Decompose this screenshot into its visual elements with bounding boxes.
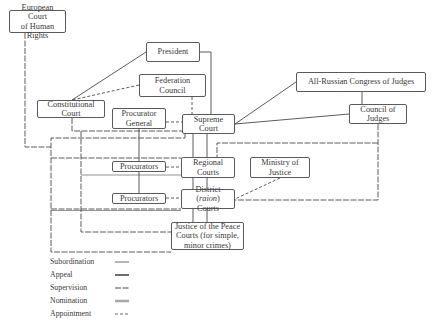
legend-label: Appointment <box>50 307 91 320</box>
echr-link <box>25 33 51 147</box>
district-courts-line2: Courts <box>197 204 219 213</box>
federation-council-label: Federation Council <box>142 76 203 95</box>
short-dash-line-icon <box>115 312 129 316</box>
node-european-court-human-rights: European Court of Human Rights <box>9 10 66 33</box>
node-president: President <box>146 42 200 62</box>
supreme-council-link <box>235 114 349 124</box>
regional-courts-label: Regional Courts <box>184 158 232 177</box>
council-regional-link <box>217 143 378 157</box>
node-procurator-general: Procurator General <box>112 108 166 129</box>
thick-line-icon <box>115 273 129 277</box>
legend-nomination: Nomination <box>50 294 150 307</box>
district-line1-b: ) <box>217 194 220 203</box>
node-supreme-court: Supreme Court <box>182 114 235 134</box>
council-label: Council of Judges <box>352 105 404 124</box>
long-dash-line-icon <box>115 286 129 290</box>
district-courts-line1: District (raion) <box>184 185 232 204</box>
legend-label: Subordination <box>50 255 94 268</box>
jop-line1: Justice of the Peace <box>175 222 240 231</box>
ministry-label: Ministry of Justice <box>253 158 307 177</box>
procurators-regional-label: Procurators <box>120 162 158 171</box>
legend-label: Supervision <box>50 281 87 294</box>
node-all-russian-congress-of-judges: All-Russian Congress of Judges <box>296 72 426 92</box>
jop-line3: minor crimes) <box>184 241 231 250</box>
legend-label: Nomination <box>50 294 87 307</box>
echr-line2: of Human Rights <box>12 22 63 41</box>
jop-line2: Courts (for simple, <box>176 231 239 240</box>
legend-supervision: Supervision <box>50 281 150 294</box>
node-council-of-judges: Council of Judges <box>349 104 407 124</box>
legend-subordination: Subordination <box>50 255 150 268</box>
ministry-district-link <box>235 178 280 199</box>
node-procurators-regional: Procurators <box>112 161 166 172</box>
constitutional-line-2 <box>81 131 171 232</box>
constitutional-court-label: Constitutional Court <box>40 100 102 119</box>
node-procurators-district: Procurators <box>112 193 166 204</box>
node-ministry-of-justice: Ministry of Justice <box>250 157 310 178</box>
legend-appointment: Appointment <box>50 307 150 320</box>
procurator-general-line2: General <box>126 119 152 128</box>
federation-constitutional-link <box>72 85 139 100</box>
president-label: President <box>158 47 189 56</box>
legend: Subordination Appeal Supervision Nominat… <box>50 255 150 320</box>
node-justice-of-peace-courts: Justice of the Peace Courts (for simple,… <box>171 222 244 250</box>
node-federation-council: Federation Council <box>139 74 206 97</box>
node-constitutional-court: Constitutional Court <box>37 100 105 118</box>
president-constitutional-link <box>72 52 146 100</box>
legend-label: Appeal <box>50 268 73 281</box>
district-line1-italic: raion <box>199 194 217 203</box>
solid-line-icon <box>115 260 129 264</box>
procurator-general-line1: Procurator <box>121 109 156 118</box>
node-regional-courts: Regional Courts <box>181 157 235 178</box>
legend-appeal: Appeal <box>50 268 150 281</box>
supreme-court-label: Supreme Court <box>185 115 232 134</box>
procurators-district-label: Procurators <box>120 194 158 203</box>
supreme-congress-link <box>235 82 296 124</box>
congress-label: All-Russian Congress of Judges <box>308 77 414 86</box>
node-district-courts: District (raion) Courts <box>181 189 235 209</box>
echr-line1: European Court <box>12 3 63 22</box>
double-line-icon <box>115 299 129 303</box>
